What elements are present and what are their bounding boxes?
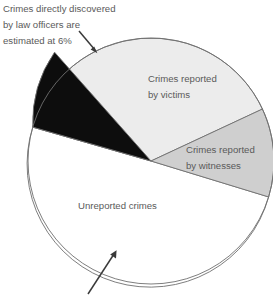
slice-label-unreported: Unreported crimes	[78, 200, 157, 211]
callout-arrow-law-officers	[79, 31, 97, 53]
law-officers-note-line3: estimated at 6%	[3, 35, 72, 46]
unreported-label: Unreported crimes	[78, 200, 157, 211]
witnesses-label-line2: by witnesses	[186, 160, 241, 171]
law-officers-note-line2: by law officers are	[3, 19, 80, 30]
law-officers-note-line1: Crimes directly discovered	[3, 3, 116, 14]
pie-chart-figure: Crimes directly discovered by law office…	[0, 0, 273, 296]
victims-label-line1: Crimes reported	[148, 73, 217, 84]
annotation-law-officers: Crimes directly discovered by law office…	[3, 3, 116, 53]
victims-label-line2: by victims	[148, 89, 190, 100]
witnesses-label-line1: Crimes reported	[186, 144, 255, 155]
